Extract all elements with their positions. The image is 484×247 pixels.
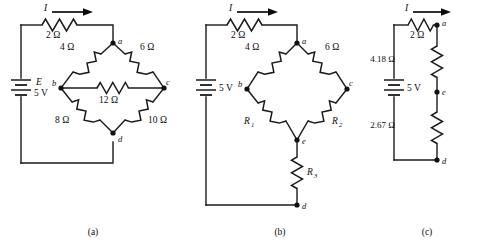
- resistor-b-6ohm-symbol: [308, 52, 336, 74]
- resistor-c-267-label: 2.67 Ω: [370, 120, 395, 130]
- node-label-a-b: b: [52, 78, 56, 88]
- current-arrow-c-head: [441, 8, 451, 16]
- resistor-b-6ohm-label: 6 Ω: [325, 42, 339, 52]
- panel-b: I 2 Ω 5 V 4 Ω 6 Ω: [196, 3, 353, 238]
- resistor-c-2ohm-label: 2 Ω: [410, 30, 424, 40]
- current-arrow-b-head: [268, 8, 278, 16]
- resistor-a-2ohm-label: 2 Ω: [46, 30, 60, 40]
- wire-a-ac-bottom: [153, 72, 164, 88]
- wire-a-cd-bottom: [113, 120, 125, 133]
- node-label-b-e: e: [302, 136, 306, 146]
- resistor-b-r2-sub: 2: [339, 121, 343, 128]
- panel-c: I 2 Ω 5 V 4.18 Ω 2.67 Ω: [370, 3, 451, 238]
- current-label-b: I: [228, 3, 233, 13]
- wire-a-ab-bottom: [61, 72, 73, 88]
- wire-b-be-top: [247, 89, 258, 103]
- node-a-dot-b: [58, 85, 63, 90]
- node-label-c-a: a: [442, 18, 446, 28]
- resistor-a-4ohm-symbol: [73, 52, 101, 74]
- current-label-a: I: [43, 3, 48, 13]
- resistor-b-r1-sub: 1: [251, 121, 254, 128]
- panel-caption-b: (b): [274, 227, 285, 238]
- node-b-dot-e: [294, 137, 299, 142]
- node-c-dot-e: [434, 89, 439, 94]
- resistor-c-418-label: 4.18 Ω: [370, 54, 395, 64]
- battery-a-voltage-label: 5 V: [34, 88, 48, 98]
- battery-b-voltage-label: 5 V: [219, 83, 233, 93]
- resistor-b-r3-symbol: [292, 157, 303, 189]
- node-label-a-a: a: [118, 36, 122, 46]
- resistor-b-4ohm-symbol: [258, 52, 286, 74]
- node-label-c-e: e: [442, 87, 446, 97]
- wire-b-be-bottom: [286, 121, 297, 140]
- node-label-b-a: a: [302, 36, 306, 46]
- wire-b-top-right: [262, 25, 297, 43]
- battery-a-emf-label: E: [35, 77, 42, 87]
- resistor-b-r1-label: R: [243, 116, 250, 126]
- wire-b-ac-bottom: [336, 72, 347, 89]
- node-label-c-d: d: [442, 156, 447, 166]
- resistor-a-8ohm-symbol: [72, 100, 100, 122]
- wire-b-ce-top: [336, 89, 347, 103]
- node-b-dot-b: [244, 86, 249, 91]
- node-b-dot-d: [294, 202, 299, 207]
- resistor-a-12ohm-symbol: [97, 83, 129, 94]
- resistor-b-r2-label: R: [331, 116, 338, 126]
- resistor-b-r1-symbol: [258, 101, 286, 123]
- circuit-figure: I 2 Ω E 5 V 4 Ω 6 Ω: [0, 0, 484, 247]
- wire-a-bottom: [21, 142, 113, 163]
- resistor-b-r3-label: R: [306, 167, 313, 177]
- node-c-dot-d: [434, 157, 439, 162]
- resistor-a-10ohm-label: 10 Ω: [148, 115, 167, 125]
- panel-caption-c: (c): [422, 227, 433, 238]
- battery-c-voltage-label: 5 V: [407, 83, 421, 93]
- resistor-b-2ohm-label: 2 Ω: [231, 30, 245, 40]
- panel-a: I 2 Ω E 5 V 4 Ω 6 Ω: [11, 3, 170, 238]
- node-label-a-d: d: [118, 134, 123, 144]
- resistor-a-12ohm-label: 12 Ω: [99, 95, 118, 105]
- resistor-b-r3-sub: 3: [313, 172, 318, 179]
- wire-a-bd-top: [61, 88, 72, 102]
- resistor-a-6ohm-label: 6 Ω: [140, 42, 154, 52]
- node-label-b-b: b: [238, 79, 242, 89]
- resistor-c-418-symbol: [432, 46, 443, 78]
- resistor-a-4ohm-label: 4 Ω: [60, 42, 74, 52]
- node-label-a-c: c: [166, 77, 170, 87]
- node-label-b-c: c: [349, 78, 353, 88]
- resistor-b-4ohm-label: 4 Ω: [245, 42, 259, 52]
- current-arrow-a-head: [83, 8, 93, 16]
- wire-a-bd-bottom: [100, 120, 113, 133]
- current-label-c: I: [404, 3, 409, 13]
- node-label-b-d: d: [302, 201, 307, 211]
- node-c-dot-a: [434, 22, 439, 27]
- wire-a-cd-top: [153, 88, 164, 102]
- panel-caption-a: (a): [88, 227, 99, 238]
- resistor-a-6ohm-symbol: [125, 52, 153, 74]
- resistor-c-267-symbol: [432, 112, 443, 144]
- node-a-dot-a: [110, 40, 115, 45]
- wire-a-top-right: [77, 25, 113, 43]
- resistor-a-8ohm-label: 8 Ω: [55, 115, 69, 125]
- circuit-diagram-svg: I 2 Ω E 5 V 4 Ω 6 Ω: [0, 0, 484, 247]
- node-b-dot-a: [294, 40, 299, 45]
- wire-b-ab-bottom: [247, 72, 258, 89]
- node-a-dot-d: [110, 130, 115, 135]
